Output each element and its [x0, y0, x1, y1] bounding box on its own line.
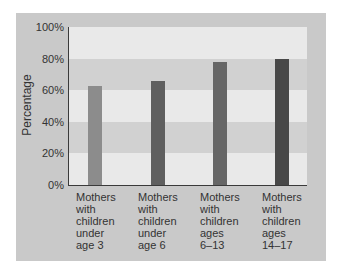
label-line: Mothers — [76, 191, 134, 203]
x-label-under-age-6: Mothers with children under age 6 — [138, 191, 196, 251]
plot-area — [69, 27, 307, 185]
label-line: children — [76, 215, 134, 227]
y-axis-line — [68, 27, 69, 186]
bar-under-age-6 — [151, 81, 165, 185]
label-line: Mothers — [138, 191, 196, 203]
y-tick-0: 0% — [48, 179, 64, 191]
label-line: Mothers — [200, 191, 258, 203]
band-20-40 — [69, 122, 307, 153]
x-label-under-age-3: Mothers with children under age 3 — [76, 191, 134, 251]
label-line: children — [138, 215, 196, 227]
y-tick-100: 100% — [36, 21, 64, 33]
x-label-ages-6-13: Mothers with children ages 6–13 — [200, 191, 258, 251]
label-line: age 3 — [76, 239, 134, 251]
label-line: 14–17 — [262, 239, 320, 251]
x-label-ages-14-17: Mothers with children ages 14–17 — [262, 191, 320, 251]
label-line: with — [76, 203, 134, 215]
label-line: ages — [200, 227, 258, 239]
label-line: ages — [262, 227, 320, 239]
label-line: 6–13 — [200, 239, 258, 251]
bar-under-age-3 — [88, 86, 102, 185]
label-line: children — [200, 215, 258, 227]
y-tick-80: 80% — [42, 53, 64, 65]
y-tick-40: 40% — [42, 116, 64, 128]
label-line: children — [262, 215, 320, 227]
y-axis-title: Percentage — [20, 74, 34, 135]
label-line: with — [138, 203, 196, 215]
bar-ages-14-17 — [275, 59, 289, 185]
band-80-100 — [69, 27, 307, 59]
bar-ages-6-13 — [213, 62, 227, 185]
y-tick-20: 20% — [42, 147, 64, 159]
label-line: age 6 — [138, 239, 196, 251]
y-tick-60: 60% — [42, 84, 64, 96]
label-line: under — [138, 227, 196, 239]
band-0-20 — [69, 153, 307, 185]
band-40-60 — [69, 90, 307, 122]
label-line: with — [200, 203, 258, 215]
label-line: with — [262, 203, 320, 215]
label-line: under — [76, 227, 134, 239]
band-60-80 — [69, 59, 307, 90]
x-axis-line — [68, 185, 307, 186]
label-line: Mothers — [262, 191, 320, 203]
